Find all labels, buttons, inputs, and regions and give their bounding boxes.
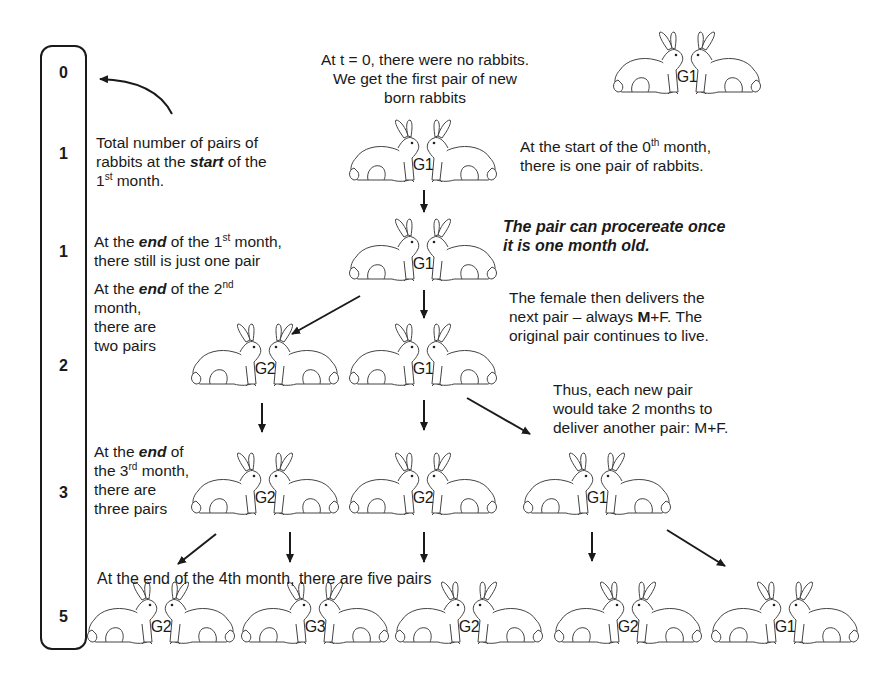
- month-count-column: [40, 45, 87, 650]
- generation-label: G2: [553, 618, 703, 636]
- generation-label: G1: [522, 489, 672, 507]
- two-month-rule-caption: Thus, each new pair would take 2 months …: [553, 380, 728, 437]
- total-line-3: 1st month.: [96, 171, 267, 190]
- female-line-3: original pair continues to live.: [509, 326, 709, 345]
- end2-line-1: At the end of the 2nd: [94, 279, 234, 298]
- rabbit-pair-month1-start: G1: [348, 118, 498, 186]
- rabbit-pair-month3-b: G2: [348, 451, 498, 519]
- rabbit-pair-month3-c: G1: [522, 451, 672, 519]
- female-line-1: The female then delivers the: [509, 288, 709, 307]
- rabbit-pair-month2-b: G1: [348, 322, 498, 390]
- total-pairs-caption: Total number of pairs of rabbits at the …: [96, 133, 267, 190]
- rabbit-pair-icon: [348, 217, 498, 285]
- intro-line-2: We get the first pair of new: [270, 69, 580, 88]
- rabbit-pair-icon: [348, 322, 498, 390]
- generation-label: G1: [348, 360, 498, 378]
- generation-label: G1: [612, 68, 762, 86]
- month-count-3: 3: [40, 484, 87, 502]
- procreate-line-2: it is one month old.: [503, 236, 725, 255]
- generation-label: G1: [348, 156, 498, 174]
- generation-label: G2: [394, 618, 544, 636]
- generation-label: G2: [190, 489, 340, 507]
- rabbit-pair-top: G1: [612, 30, 762, 98]
- female-delivers-caption: The female then delivers the next pair –…: [509, 288, 709, 345]
- thus-line-3: deliver another pair: M+F.: [553, 418, 728, 437]
- arrow-down-left-icon: [178, 534, 216, 564]
- intro-line-3: born rabbits: [270, 88, 580, 107]
- rabbit-pair-month4-b: G3: [240, 580, 390, 648]
- thus-line-2: would take 2 months to: [553, 399, 728, 418]
- rabbit-pair-icon: [394, 580, 544, 648]
- month-count-0: 0: [40, 64, 87, 82]
- generation-label: G2: [348, 489, 498, 507]
- end3-line-4: three pairs: [94, 499, 189, 518]
- rabbit-pair-icon: [348, 451, 498, 519]
- intro-line-1: At t = 0, there were no rabbits.: [270, 50, 580, 69]
- rabbit-pair-month3-a: G2: [190, 451, 340, 519]
- end3-line-2: the 3rd month,: [94, 461, 189, 480]
- generation-label: G3: [240, 618, 390, 636]
- month-count-1-start: 1: [40, 145, 87, 163]
- rabbit-pair-icon: [522, 451, 672, 519]
- month-count-1-end: 1: [40, 243, 87, 261]
- end-month4-caption: At the end of the 4th month, there are f…: [97, 569, 431, 588]
- rabbit-pair-icon: [190, 322, 340, 390]
- end1-line-2: there still is just one pair: [94, 251, 282, 270]
- start0-line-2: there is one pair of rabbits.: [520, 156, 711, 175]
- end3-line-1: At the end of: [94, 442, 189, 461]
- thus-line-1: Thus, each new pair: [553, 380, 728, 399]
- curved-arrow-icon: [100, 79, 172, 114]
- generation-label: G2: [190, 360, 340, 378]
- rabbit-pair-month4-c: G2: [394, 580, 544, 648]
- end-month3-caption: At the end of the 3rd month, there are t…: [94, 442, 189, 518]
- end3-line-3: there are: [94, 480, 189, 499]
- rabbit-pair-icon: [348, 118, 498, 186]
- rabbit-pair-month4-e: G1: [710, 580, 860, 648]
- rabbit-pair-month1-end: G1: [348, 217, 498, 285]
- rabbit-pair-month4-d: G2: [553, 580, 703, 648]
- rabbit-pair-icon: [612, 30, 762, 98]
- end-month1-caption: At the end of the 1st month, there still…: [94, 232, 282, 270]
- rabbit-pair-icon: [190, 451, 340, 519]
- procreate-caption: The pair can procereate once it is one m…: [503, 217, 725, 255]
- arrow-down-right-icon: [467, 398, 530, 434]
- start-month0-caption: At the start of the 0th month, there is …: [520, 137, 711, 175]
- month-count-2: 2: [40, 357, 87, 375]
- generation-label: G1: [710, 618, 860, 636]
- rabbit-pair-icon: [553, 580, 703, 648]
- rabbit-pair-icon: [240, 580, 390, 648]
- month-count-5: 5: [40, 608, 87, 626]
- rabbit-pair-month4-a: G2: [86, 580, 236, 648]
- arrow-down-right-icon: [667, 530, 725, 566]
- procreate-line-1: The pair can procereate once: [503, 217, 725, 236]
- start0-line-1: At the start of the 0th month,: [520, 137, 711, 156]
- generation-label: G2: [86, 618, 236, 636]
- end2-line-2: month,: [94, 298, 234, 317]
- generation-label: G1: [348, 255, 498, 273]
- total-line-2: rabbits at the start of the: [96, 152, 267, 171]
- end1-line-1: At the end of the 1st month,: [94, 232, 282, 251]
- rabbit-pair-month2-a: G2: [190, 322, 340, 390]
- rabbit-pair-icon: [710, 580, 860, 648]
- total-line-1: Total number of pairs of: [96, 133, 267, 152]
- female-line-2: next pair – always M+F. The: [509, 307, 709, 326]
- intro-caption: At t = 0, there were no rabbits. We get …: [270, 50, 580, 107]
- rabbit-pair-icon: [86, 580, 236, 648]
